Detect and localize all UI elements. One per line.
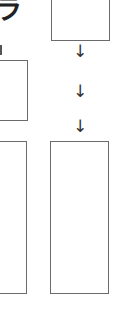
right-box-2 bbox=[50, 141, 109, 294]
down-arrow-icon-1: ↓ bbox=[70, 43, 90, 60]
right-box-1 bbox=[51, 0, 110, 41]
partial-character-glyph: ラ bbox=[0, 0, 22, 24]
connector-tick bbox=[0, 45, 2, 55]
down-arrow-icon-2: ↓ bbox=[70, 83, 90, 100]
left-box-2 bbox=[0, 141, 27, 294]
left-arrow-icon: ↓ bbox=[0, 118, 6, 135]
left-box-1 bbox=[0, 60, 28, 121]
down-arrow-icon-3: ↓ bbox=[70, 118, 90, 135]
